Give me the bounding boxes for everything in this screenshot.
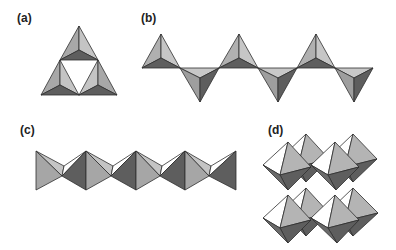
tetrahedron-top xyxy=(60,26,98,60)
octahedron-3 xyxy=(111,151,160,190)
panel-b-tetrahedra-chain xyxy=(142,34,373,102)
tetrahedron-bottom-right xyxy=(79,60,117,95)
tetrahedron-bottom-left xyxy=(41,60,79,95)
tetrahedron-up-3 xyxy=(297,34,335,68)
tetrahedron-down-1 xyxy=(180,68,219,102)
octahedron-4 xyxy=(160,151,209,190)
polyhedra-figure xyxy=(0,0,396,250)
panel-c-octahedra-chain xyxy=(36,151,236,190)
tetrahedron-down-3 xyxy=(335,68,373,102)
octahedron-2 xyxy=(62,151,111,190)
tetrahedron-up-1 xyxy=(142,34,180,68)
panel-a-tetrahedra-ring xyxy=(41,26,117,95)
panel-d-octahedra-framework xyxy=(263,134,378,243)
tetrahedron-down-2 xyxy=(258,68,297,102)
tetrahedron-up-2 xyxy=(219,34,258,68)
